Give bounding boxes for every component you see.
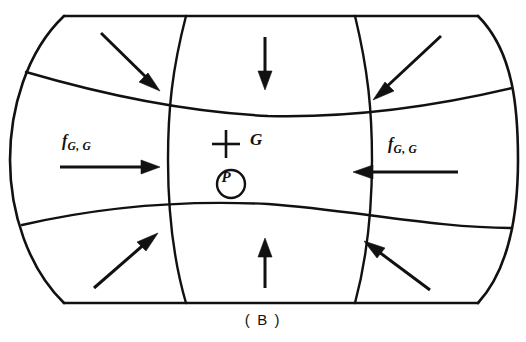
force-right-subscript: G, G xyxy=(394,143,418,155)
figure-caption: ( B ) xyxy=(0,311,526,328)
arrow-bottom-right xyxy=(364,241,430,290)
grid-vertical-left xyxy=(168,16,186,303)
arrow-middle-left xyxy=(60,160,160,174)
force-label-right: fG, G xyxy=(388,136,417,155)
outline-left-arc xyxy=(10,16,64,303)
force-label-left: fG, G xyxy=(62,133,91,152)
figure-panel-b: fG, G fG, G G P ( B ) xyxy=(0,0,526,342)
arrow-top-center xyxy=(258,37,272,90)
point-p-label: P xyxy=(221,170,230,185)
grid-horizontal-lower xyxy=(22,203,512,228)
arrow-top-right xyxy=(373,36,441,100)
arrow-top-left xyxy=(101,33,160,91)
arrow-bottom-center xyxy=(258,238,272,288)
force-left-subscript: G, G xyxy=(68,140,92,152)
grid-vertical-right xyxy=(355,16,372,303)
center-g-label: G xyxy=(250,131,262,148)
diagram-canvas xyxy=(0,0,526,342)
center-crosshair-icon xyxy=(212,130,240,158)
outline-right-arc xyxy=(478,16,518,303)
arrow-bottom-left xyxy=(94,233,158,288)
grid-lines xyxy=(22,16,512,303)
arrow-middle-right xyxy=(353,165,458,179)
